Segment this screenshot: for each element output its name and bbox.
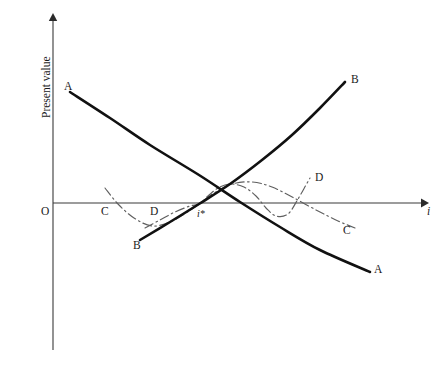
chart-figure: Present value i O i* A A B B C C D D <box>0 0 447 366</box>
y-axis-arrowhead-icon <box>49 13 57 21</box>
y-axis-label: Present value <box>40 56 52 118</box>
curve-a-path <box>70 92 370 272</box>
curve-label-a-right: A <box>374 264 382 276</box>
curve-label-d-left: D <box>150 206 158 218</box>
origin-label: O <box>41 206 49 218</box>
chart-canvas <box>0 0 447 366</box>
curve-label-b-right: B <box>351 74 359 86</box>
curve-c-path <box>105 182 355 228</box>
curve-label-b-left: B <box>133 240 141 252</box>
curve-b-path <box>140 82 345 240</box>
curve-label-a-left: A <box>64 81 72 93</box>
crossover-rate-label: i* <box>197 209 205 219</box>
x-axis-label: i <box>427 206 430 218</box>
curve-label-c-right: C <box>343 225 351 237</box>
curve-label-d-right: D <box>315 172 323 184</box>
curve-label-c-left: C <box>101 206 109 218</box>
